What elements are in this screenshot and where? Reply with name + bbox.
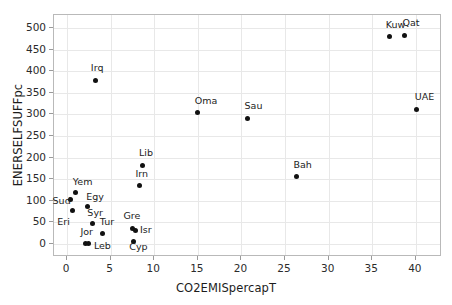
- gridline-vertical: [372, 15, 373, 255]
- data-point-label: Egy: [86, 192, 104, 202]
- x-tick-label: 0: [63, 263, 70, 274]
- data-point-label: Leb: [94, 241, 111, 251]
- y-axis-tick: [49, 27, 53, 28]
- x-axis-tick: [240, 256, 241, 260]
- data-point[interactable]: [387, 34, 392, 39]
- x-tick-label: 30: [321, 263, 334, 274]
- x-tick-label: 35: [365, 263, 378, 274]
- gridline-vertical: [154, 15, 155, 255]
- gridline-vertical: [285, 15, 286, 255]
- x-tick-label: 10: [147, 263, 160, 274]
- gridline-horizontal: [54, 244, 440, 245]
- y-tick-label: 500: [5, 22, 46, 33]
- gridline-horizontal: [54, 71, 440, 72]
- data-point-label: Yem: [73, 177, 93, 187]
- data-point[interactable]: [93, 78, 98, 83]
- x-axis-tick: [328, 256, 329, 260]
- data-point-label: Gre: [123, 211, 140, 221]
- y-axis-tick: [49, 243, 53, 244]
- x-axis-tick: [284, 256, 285, 260]
- data-point[interactable]: [73, 190, 78, 195]
- data-point-label: Cyp: [129, 242, 147, 252]
- x-axis-tick: [110, 256, 111, 260]
- gridline-vertical: [198, 15, 199, 255]
- x-tick-label: 40: [408, 263, 421, 274]
- y-axis-tick: [49, 49, 53, 50]
- y-tick-label: 0: [5, 238, 46, 249]
- x-axis-title: CO2EMISpercapT: [0, 281, 452, 295]
- x-axis-tick: [415, 256, 416, 260]
- data-point-label: Irn: [135, 169, 148, 179]
- x-tick-label: 25: [277, 263, 290, 274]
- y-axis-tick: [49, 178, 53, 179]
- plot-area: SudEriYemEgyJorLebSyrTurIrqGreIsrCypIrnL…: [53, 14, 441, 256]
- gridline-horizontal: [54, 158, 440, 159]
- data-point-label: UAE: [415, 92, 434, 102]
- gridline-horizontal: [54, 201, 440, 202]
- data-point[interactable]: [70, 208, 75, 213]
- data-point-label: Oma: [195, 96, 218, 106]
- gridline-horizontal: [54, 28, 440, 29]
- scatter-chart: SudEriYemEgyJorLebSyrTurIrqGreIsrCypIrnL…: [0, 0, 452, 305]
- x-axis-tick: [153, 256, 154, 260]
- x-axis-tick: [197, 256, 198, 260]
- gridline-vertical: [241, 15, 242, 255]
- data-point[interactable]: [245, 116, 250, 121]
- x-tick-label: 20: [234, 263, 247, 274]
- y-axis-tick: [49, 70, 53, 71]
- data-point[interactable]: [137, 183, 142, 188]
- gridline-horizontal: [54, 179, 440, 180]
- y-tick-label: 450: [5, 43, 46, 54]
- data-point-label: Jor: [80, 227, 93, 237]
- y-axis-tick: [49, 157, 53, 158]
- y-axis-tick: [49, 135, 53, 136]
- data-point-label: Bah: [293, 160, 311, 170]
- data-point-label: Eri: [57, 217, 70, 227]
- gridline-horizontal: [54, 136, 440, 137]
- y-axis-tick: [49, 92, 53, 93]
- y-axis-title: ENERSELFSUFFpc: [11, 65, 25, 205]
- data-point[interactable]: [90, 221, 95, 226]
- y-tick-label: 50: [5, 216, 46, 227]
- data-point-label: Tur: [100, 217, 114, 227]
- data-point-label: Sud: [53, 196, 71, 206]
- x-axis-tick: [371, 256, 372, 260]
- gridline-vertical: [329, 15, 330, 255]
- gridline-vertical: [416, 15, 417, 255]
- data-point-label: Lib: [139, 148, 153, 158]
- data-point-label: Irq: [91, 63, 104, 73]
- data-point-label: Isr: [140, 225, 152, 235]
- gridline-horizontal: [54, 93, 440, 94]
- data-point[interactable]: [100, 231, 105, 236]
- data-point[interactable]: [402, 33, 407, 38]
- x-tick-label: 15: [190, 263, 203, 274]
- x-tick-label: 5: [106, 263, 113, 274]
- data-point[interactable]: [414, 107, 419, 112]
- data-point[interactable]: [140, 163, 145, 168]
- y-axis-tick: [49, 113, 53, 114]
- data-point-label: Sau: [245, 101, 263, 111]
- x-axis-tick: [66, 256, 67, 260]
- gridline-horizontal: [54, 50, 440, 51]
- y-axis-tick: [49, 221, 53, 222]
- data-point[interactable]: [133, 228, 138, 233]
- data-point[interactable]: [294, 174, 299, 179]
- y-axis-tick: [49, 200, 53, 201]
- data-point-label: Qat: [403, 18, 420, 28]
